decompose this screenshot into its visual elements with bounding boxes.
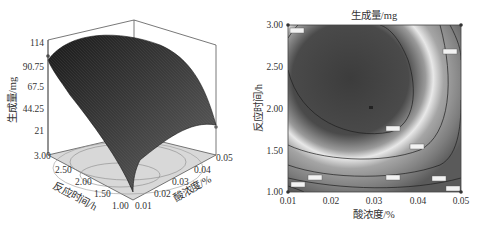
contour-plot-svg: 生成量/mg bbox=[240, 0, 478, 230]
design-point bbox=[214, 125, 218, 129]
design-point bbox=[286, 23, 290, 27]
y-tick: 1.50 bbox=[94, 189, 111, 199]
chart-title: 生成量/mg bbox=[351, 9, 398, 21]
x-tick: 0.02 bbox=[154, 189, 171, 199]
x-tick: 0.04 bbox=[194, 165, 211, 175]
z-tick: 44.25 bbox=[23, 104, 45, 114]
z-axis: 114 90.75 67.5 44.25 21 生成量/mg bbox=[6, 38, 48, 155]
z-tick: 67.5 bbox=[27, 82, 44, 92]
y-tick: 2.00 bbox=[75, 177, 92, 187]
y-tick: 3.00 bbox=[34, 151, 51, 161]
x-tick: 0.01 bbox=[280, 196, 297, 206]
y-tick: 1.00 bbox=[112, 201, 129, 211]
surface-plot-3d: 114 90.75 67.5 44.25 21 生成量/mg 3.00 2.50… bbox=[0, 0, 240, 230]
center-point-marker bbox=[369, 106, 373, 109]
response-surface bbox=[46, 35, 218, 192]
x-tick: 0.05 bbox=[216, 153, 233, 163]
y-tick: 1.50 bbox=[266, 146, 283, 156]
x-tick: 0.05 bbox=[453, 196, 470, 206]
x-tick: 0.03 bbox=[366, 196, 383, 206]
x-axis-label: 酸浓度/% bbox=[353, 208, 395, 220]
design-point bbox=[459, 190, 463, 194]
design-point bbox=[459, 23, 463, 27]
y-tick: 2.00 bbox=[266, 104, 283, 114]
contour-plot: 生成量/mg bbox=[240, 0, 478, 230]
x-tick: 0.01 bbox=[135, 201, 152, 211]
z-axis-label: 生成量/mg bbox=[6, 76, 18, 123]
z-tick: 21 bbox=[35, 126, 45, 136]
x-axis: 0.01 0.02 0.03 0.04 0.05 酸浓度/% bbox=[280, 196, 470, 220]
contour-area bbox=[288, 25, 461, 192]
surface-plot-svg: 114 90.75 67.5 44.25 21 生成量/mg 3.00 2.50… bbox=[0, 0, 240, 230]
y-axis: 3.00 2.50 2.00 1.50 1.00 反应时间/h bbox=[252, 20, 283, 197]
z-tick: 114 bbox=[30, 38, 44, 48]
design-point bbox=[286, 190, 290, 194]
x-tick: 0.02 bbox=[323, 196, 340, 206]
y-tick: 3.00 bbox=[266, 20, 283, 30]
x-tick: 0.04 bbox=[410, 196, 427, 206]
y-tick: 2.50 bbox=[266, 62, 283, 72]
z-tick: 90.75 bbox=[23, 62, 45, 72]
y-tick: 2.50 bbox=[55, 165, 72, 175]
y-axis-label: 反应时间/h bbox=[252, 83, 264, 132]
